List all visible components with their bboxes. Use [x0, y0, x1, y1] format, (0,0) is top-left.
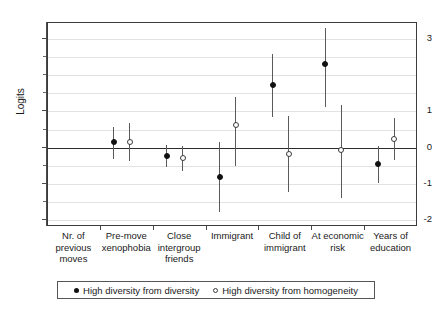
x-axis-category-label: Years ofeducation	[354, 230, 428, 253]
y-minor-tick	[43, 74, 46, 75]
legend-label-homogeneity: High diversity from homogeneity	[222, 285, 358, 296]
data-point-open	[338, 147, 344, 153]
y-axis-title: Logits	[15, 72, 26, 132]
y-tick-label: 0	[394, 142, 432, 152]
gridline	[48, 130, 416, 131]
gridline	[48, 166, 416, 167]
y-minor-tick	[43, 201, 46, 202]
data-point-open	[286, 151, 292, 157]
y-minor-tick	[43, 92, 46, 93]
gridline	[48, 57, 416, 58]
data-point-open	[127, 139, 133, 145]
x-axis-category-label-line: Years of	[354, 230, 428, 242]
legend-entry-homogeneity: High diversity from homogeneity	[213, 285, 358, 296]
gridline	[48, 184, 416, 185]
chart-figure: Logits High diversity from diversity Hig…	[0, 0, 432, 314]
error-bar	[235, 97, 236, 166]
y-tick-label: 3	[394, 33, 432, 43]
y-tick	[42, 183, 46, 184]
zero-reference-line	[48, 148, 416, 149]
y-minor-tick	[43, 129, 46, 130]
data-point-filled	[217, 174, 223, 180]
filled-circle-icon	[74, 288, 79, 293]
data-point-open	[233, 122, 239, 128]
plot-area	[47, 22, 417, 226]
y-tick	[42, 219, 46, 220]
y-tick	[42, 110, 46, 111]
gridline	[48, 111, 416, 112]
gridline	[48, 202, 416, 203]
legend-label-diversity: High diversity from diversity	[83, 285, 199, 296]
x-axis-category-label-line: intergroup	[142, 242, 216, 254]
gridline	[48, 93, 416, 94]
x-axis-category-label-line: education	[354, 242, 428, 254]
data-point-filled	[322, 61, 328, 67]
data-point-filled	[164, 153, 170, 159]
y-tick-label: -2	[394, 214, 432, 224]
x-axis-category-label-line: moves	[36, 253, 110, 265]
y-tick-label: -1	[394, 178, 432, 188]
gridline	[48, 220, 416, 221]
y-tick	[42, 147, 46, 148]
chart-legend: High diversity from diversity High diver…	[57, 281, 375, 299]
y-tick	[42, 38, 46, 39]
data-point-filled	[270, 82, 276, 88]
y-minor-tick	[43, 56, 46, 57]
data-point-open	[180, 155, 186, 161]
legend-entry-diversity: High diversity from diversity	[74, 285, 199, 296]
error-bar	[325, 28, 326, 107]
y-axis-line	[46, 22, 47, 226]
x-axis-category-label-line: friends	[142, 253, 216, 265]
y-tick-label: 1	[394, 105, 432, 115]
data-point-filled	[111, 139, 117, 145]
gridline	[48, 75, 416, 76]
y-minor-tick	[43, 165, 46, 166]
gridline	[48, 39, 416, 40]
open-circle-icon	[213, 288, 218, 293]
